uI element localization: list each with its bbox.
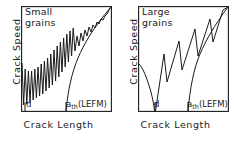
tick-label-d-left: d xyxy=(26,99,31,109)
panel-large-grains: Crack Speed Large grains d ath(LEFM) Cra… xyxy=(117,0,234,154)
tick-label-ath-left: ath(LEFM) xyxy=(66,99,107,111)
lefm-threshold-curve xyxy=(188,7,228,111)
y-axis-label-right: Crack Speed xyxy=(128,10,139,94)
x-axis-label-left: Crack Length xyxy=(0,119,117,130)
x-axis-label-right: Crack Length xyxy=(117,119,234,130)
y-axis-label-left: Crack Speed xyxy=(11,10,22,94)
tick-label-ath-sub: th xyxy=(192,103,199,111)
panel-title-large-grains: Large grains xyxy=(142,7,173,28)
tick-label-ath-tail: (LEFM) xyxy=(78,99,107,109)
panel-title-small-grains: Small grains xyxy=(25,7,56,28)
tick-label-d-right: d xyxy=(154,99,159,109)
panel-small-grains: Crack Speed Small grains d ath(LEFM) Cra… xyxy=(0,0,117,154)
tick-label-ath-sub: th xyxy=(71,103,78,111)
tick-label-ath-right: ath(LEFM) xyxy=(187,99,228,111)
tick-label-ath-tail: (LEFM) xyxy=(199,99,228,109)
lefm-threshold-curve xyxy=(66,7,111,111)
